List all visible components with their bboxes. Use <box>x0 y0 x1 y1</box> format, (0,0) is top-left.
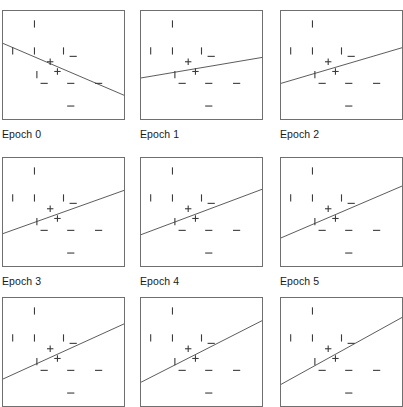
decision-boundary-line <box>281 186 402 238</box>
plot-area-1 <box>140 10 263 120</box>
plot-area-5 <box>280 157 403 267</box>
plot-area-3 <box>2 157 125 267</box>
plot-canvas-2 <box>281 11 402 119</box>
decision-boundary-line <box>141 57 262 78</box>
cut-off-previous-row <box>0 0 403 6</box>
epoch-label-0: Epoch 0 <box>2 128 41 140</box>
plot-canvas-4 <box>141 158 262 266</box>
data-point-positive <box>47 346 53 352</box>
data-point-positive <box>332 68 338 74</box>
plot-area-8 <box>280 297 403 407</box>
data-point-positive <box>192 355 198 361</box>
plot-area-7 <box>140 297 263 407</box>
plot-canvas-1 <box>141 11 262 119</box>
data-point-positive <box>185 59 191 65</box>
data-point-positive <box>325 206 331 212</box>
decision-boundary-line <box>3 324 124 379</box>
plot-canvas-8 <box>281 298 402 406</box>
data-point-positive <box>325 346 331 352</box>
plot-canvas-6 <box>3 298 124 406</box>
data-point-positive <box>185 346 191 352</box>
data-point-positive <box>47 206 53 212</box>
decision-boundary-line <box>281 317 402 384</box>
data-point-positive <box>332 215 338 221</box>
data-point-positive <box>192 215 198 221</box>
plot-canvas-7 <box>141 298 262 406</box>
epoch-label-3: Epoch 3 <box>2 275 41 287</box>
epoch-label-2: Epoch 2 <box>280 128 319 140</box>
plot-area-0 <box>2 10 125 120</box>
data-point-positive <box>332 355 338 361</box>
data-point-positive <box>47 59 53 65</box>
plot-area-6 <box>2 297 125 407</box>
plot-canvas-0 <box>3 11 124 119</box>
data-point-positive <box>54 215 60 221</box>
data-point-positive <box>325 59 331 65</box>
data-point-positive <box>185 206 191 212</box>
data-point-positive <box>54 68 60 74</box>
plot-canvas-3 <box>3 158 124 266</box>
epoch-label-5: Epoch 5 <box>280 275 319 287</box>
epoch-label-4: Epoch 4 <box>140 275 179 287</box>
plot-area-2 <box>280 10 403 120</box>
plot-canvas-5 <box>281 158 402 266</box>
epoch-label-1: Epoch 1 <box>140 128 179 140</box>
data-point-positive <box>54 355 60 361</box>
plot-area-4 <box>140 157 263 267</box>
decision-boundary-line <box>141 321 262 383</box>
